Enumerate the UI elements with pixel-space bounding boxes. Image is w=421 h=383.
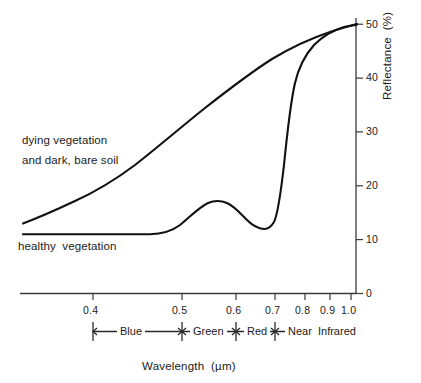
- x-tick-label-3: 0.7: [265, 304, 280, 316]
- y-axis-title: Reflectance (%): [381, 12, 393, 100]
- x-axis-ticks: [93, 294, 351, 301]
- x-tick-label-0: 0.4: [83, 304, 98, 316]
- band-label-near-infrared: Near Infrared: [285, 325, 359, 337]
- x-tick-label-1: 0.5: [172, 304, 187, 316]
- x-tick-label-6: 1.0: [341, 304, 356, 316]
- y-tick-label-5: 50: [366, 18, 378, 30]
- y-tick-label-1: 10: [366, 233, 378, 245]
- y-tick-label-0: 0: [366, 287, 372, 299]
- dying-vegetation-label-line1: dying vegetation: [22, 134, 107, 146]
- x-axis-title: Wavelength (µm): [142, 360, 236, 372]
- spectral-reflectance-chart: 0.4 0.5 0.6 0.7 0.8 0.9 1.0 0 10 20 30 4…: [0, 0, 421, 383]
- y-axis-ticks: [356, 24, 363, 293]
- x-tick-label-5: 0.9: [320, 304, 335, 316]
- x-tick-label-2: 0.6: [226, 304, 241, 316]
- y-tick-label-2: 20: [366, 179, 378, 191]
- band-label-blue: Blue: [117, 325, 145, 337]
- x-tick-label-4: 0.8: [295, 304, 310, 316]
- band-label-green: Green: [190, 325, 227, 337]
- band-label-red: Red: [244, 325, 270, 337]
- y-tick-label-4: 40: [366, 71, 378, 83]
- dying-vegetation-label-line2: and dark, bare soil: [22, 154, 119, 166]
- healthy-vegetation-label: healthy vegetation: [18, 240, 116, 252]
- y-tick-label-3: 30: [366, 125, 378, 137]
